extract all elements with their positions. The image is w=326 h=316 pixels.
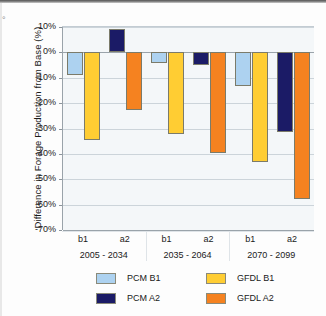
bar — [151, 52, 167, 63]
y-axis-tick-mark — [59, 78, 62, 79]
bar — [109, 29, 125, 52]
legend-swatch — [96, 293, 116, 304]
bar — [84, 52, 100, 140]
scan-artifact-top-line — [0, 0, 326, 3]
gridline — [63, 205, 314, 206]
legend-swatch — [206, 293, 226, 304]
y-axis-tick-mark — [59, 103, 62, 104]
bar — [252, 52, 268, 162]
y-axis-tick-label: -60% — [0, 199, 56, 209]
chart-legend: PCM B1GFDL B1PCM A2GFDL A2 — [96, 272, 316, 310]
bar — [235, 52, 251, 86]
x-axis-scenario-label: a2 — [188, 234, 230, 244]
y-axis-tick-mark — [59, 27, 62, 28]
y-axis-tick-mark — [59, 179, 62, 180]
y-axis-tick-label: -40% — [0, 148, 56, 158]
gridline — [63, 179, 314, 180]
x-axis-label-separator — [62, 231, 314, 232]
legend-label: GFDL B1 — [237, 272, 274, 285]
x-axis-period-label: 2035 - 2064 — [146, 250, 230, 260]
legend-swatch — [96, 273, 116, 284]
y-axis-tick-mark — [59, 205, 62, 206]
y-axis-tick-label: -50% — [0, 173, 56, 183]
y-axis-tick-mark — [59, 154, 62, 155]
legend-label: GFDL A2 — [237, 292, 274, 305]
legend-label: PCM B1 — [127, 272, 161, 285]
bar — [193, 52, 209, 65]
bar — [277, 52, 293, 132]
plot-area — [62, 27, 314, 230]
x-axis-period-label: 2005 - 2034 — [62, 250, 146, 260]
x-axis-scenario-label: b1 — [62, 234, 104, 244]
x-axis-scenario-label: a2 — [271, 234, 313, 244]
y-axis-tick-label: 10% — [0, 21, 56, 31]
x-axis-scenario-label: b1 — [146, 234, 188, 244]
legend-label: PCM A2 — [127, 292, 160, 305]
x-axis-scenario-label: a2 — [104, 234, 146, 244]
chart-figure: ° Difference in Forage Production from B… — [0, 0, 326, 316]
y-axis-tick-label: -20% — [0, 97, 56, 107]
x-axis-period-label: 2070 - 2099 — [229, 250, 313, 260]
bar — [294, 52, 310, 198]
x-axis-group-separator — [146, 231, 147, 261]
y-axis-tick-label: -30% — [0, 123, 56, 133]
y-axis-tick-label: -70% — [0, 224, 56, 234]
y-axis-tick-label: 0% — [0, 46, 56, 56]
y-axis-tick-label: -10% — [0, 72, 56, 82]
gridline — [63, 27, 314, 28]
bar — [67, 52, 83, 74]
legend-swatch — [206, 273, 226, 284]
bar — [126, 52, 142, 110]
bar — [210, 52, 226, 152]
y-axis-tick-mark — [59, 129, 62, 130]
x-axis-group-separator — [229, 231, 230, 261]
y-axis-tick-mark — [59, 52, 62, 53]
bar — [168, 52, 184, 134]
x-axis-scenario-label: b1 — [229, 234, 271, 244]
gridline — [63, 154, 314, 155]
